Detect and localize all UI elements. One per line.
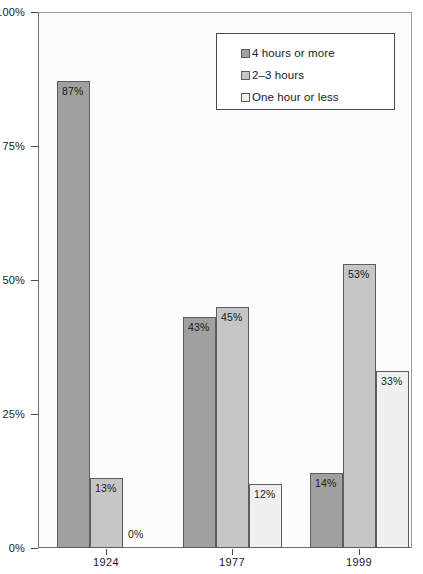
legend-label: 2–3 hours	[252, 69, 304, 82]
x-tick-mark-1999	[359, 549, 360, 555]
bar-value-label: 0%	[128, 529, 143, 540]
x-tick-mark-1924	[106, 549, 107, 555]
bar-value-label: 43%	[188, 322, 209, 333]
bar-value-label: 45%	[221, 312, 242, 323]
bar-chart: 100% 75% 50% 25% 0% 87% 13% 0% 43% 45% 1…	[0, 0, 423, 574]
y-axis: 100% 75% 50% 25% 0%	[0, 0, 38, 574]
legend-swatch-icon	[241, 93, 250, 102]
legend-swatch-icon	[241, 71, 250, 80]
bar-value-label: 53%	[348, 269, 369, 280]
legend-item-2-3-hours: 2–3 hours	[241, 69, 304, 82]
bar-1977-4-hours-or-more: 43%	[183, 317, 216, 548]
x-tick-label-1977: 1977	[219, 556, 245, 568]
bar-1999-one-hour-or-less: 33%	[376, 371, 409, 548]
y-tick-label-25: 25%	[2, 409, 25, 420]
y-tick-mark-0	[31, 548, 38, 549]
y-tick-mark-75	[31, 146, 38, 147]
bar-value-label: 12%	[254, 489, 275, 500]
bar-1999-4-hours-or-more: 14%	[310, 473, 343, 548]
bar-1924-one-hour-or-less: 0%	[123, 547, 156, 548]
bar-value-label: 14%	[315, 478, 336, 489]
x-tick-label-1924: 1924	[93, 556, 119, 568]
legend: 4 hours or more 2–3 hours One hour or le…	[216, 33, 395, 110]
bar-value-label: 87%	[62, 86, 83, 97]
bar-1924-4-hours-or-more: 87%	[57, 81, 90, 548]
x-tick-mark-1977	[232, 549, 233, 555]
bar-value-label: 13%	[95, 483, 116, 494]
legend-item-4-hours-or-more: 4 hours or more	[241, 47, 335, 60]
legend-swatch-icon	[241, 49, 250, 58]
y-tick-mark-100	[31, 12, 38, 13]
legend-label: 4 hours or more	[252, 47, 335, 60]
bar-1977-2-3-hours: 45%	[216, 307, 249, 548]
y-tick-label-75: 75%	[2, 141, 25, 152]
legend-item-one-hour-or-less: One hour or less	[241, 91, 339, 104]
y-tick-mark-25	[31, 414, 38, 415]
y-tick-mark-50	[31, 280, 38, 281]
y-tick-label-50: 50%	[2, 275, 25, 286]
x-axis: 1924 1977 1999	[0, 556, 423, 574]
y-tick-label-0: 0%	[9, 543, 25, 554]
bar-1977-one-hour-or-less: 12%	[249, 484, 282, 548]
legend-label: One hour or less	[252, 91, 339, 104]
bar-value-label: 33%	[381, 376, 402, 387]
y-tick-label-100: 100%	[0, 7, 25, 18]
bar-1999-2-3-hours: 53%	[343, 264, 376, 548]
x-tick-label-1999: 1999	[346, 556, 372, 568]
bar-1924-2-3-hours: 13%	[90, 478, 123, 548]
